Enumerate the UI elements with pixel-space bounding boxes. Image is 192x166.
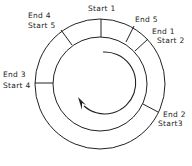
label-end5: End 5 bbox=[135, 15, 158, 24]
label-start1: Start 1 bbox=[88, 4, 116, 13]
label-start4: Start 4 bbox=[3, 81, 31, 90]
label-start2: Start 2 bbox=[157, 36, 185, 45]
label-end1: End 1 bbox=[152, 27, 175, 36]
outer-ring bbox=[35, 19, 165, 149]
divider-end1-start2 bbox=[135, 39, 148, 51]
label-end3: End 3 bbox=[3, 70, 26, 79]
divider-end2-start3 bbox=[143, 104, 158, 112]
label-start3: Start3 bbox=[158, 119, 183, 128]
label-end2: End 2 bbox=[163, 110, 186, 119]
divider-end5 bbox=[126, 26, 134, 42]
inner-ring bbox=[53, 37, 147, 131]
divider-end4-start5 bbox=[61, 30, 72, 45]
direction-arrow bbox=[84, 52, 136, 114]
label-end4: End 4 bbox=[28, 11, 51, 20]
label-start5: Start 5 bbox=[28, 21, 56, 30]
arrowhead-icon bbox=[78, 97, 86, 110]
